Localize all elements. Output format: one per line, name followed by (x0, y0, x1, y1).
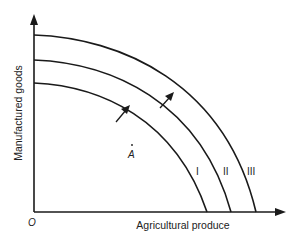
y-axis-arrow-icon (30, 14, 38, 25)
x-axis-title: Agricultural produce (136, 219, 230, 231)
point-a-label: A (127, 149, 135, 160)
x-axis (34, 208, 286, 216)
point-a-dot (131, 144, 133, 146)
y-axis (30, 14, 38, 212)
arrow-head-icon (165, 92, 174, 101)
curve-label-i: I (196, 166, 199, 177)
curve-label-iii: III (247, 166, 255, 177)
origin-label: O (28, 217, 36, 228)
shift-arrow-ii-to-iii (160, 92, 174, 108)
y-axis-title: Manufactured goods (12, 65, 24, 161)
point-a: A (127, 144, 135, 160)
ppf-diagram: A I II III O Agricultural produce Manufa… (0, 0, 304, 241)
x-axis-arrow-icon (275, 208, 286, 216)
ppf-curve-ii (34, 60, 231, 212)
curve-label-ii: II (223, 166, 229, 177)
ppf-curve-i (34, 83, 207, 212)
